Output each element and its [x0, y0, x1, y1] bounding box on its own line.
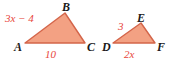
- triangles-canvas: [0, 0, 173, 67]
- side-label-df: 2x: [124, 49, 134, 60]
- vertex-label-e: E: [137, 12, 145, 24]
- geometry-figure: A B C D E F 3x − 4 10 3 2x: [0, 0, 173, 67]
- vertex-label-d: D: [102, 41, 111, 53]
- triangle-abc-shape: [25, 13, 85, 43]
- side-label-ac: 10: [45, 49, 56, 60]
- side-label-de: 3: [118, 21, 124, 32]
- vertex-label-a: A: [14, 41, 22, 53]
- vertex-label-b: B: [62, 1, 70, 13]
- side-label-ab: 3x − 4: [5, 13, 34, 24]
- vertex-label-f: F: [157, 41, 165, 53]
- vertex-label-c: C: [87, 41, 95, 53]
